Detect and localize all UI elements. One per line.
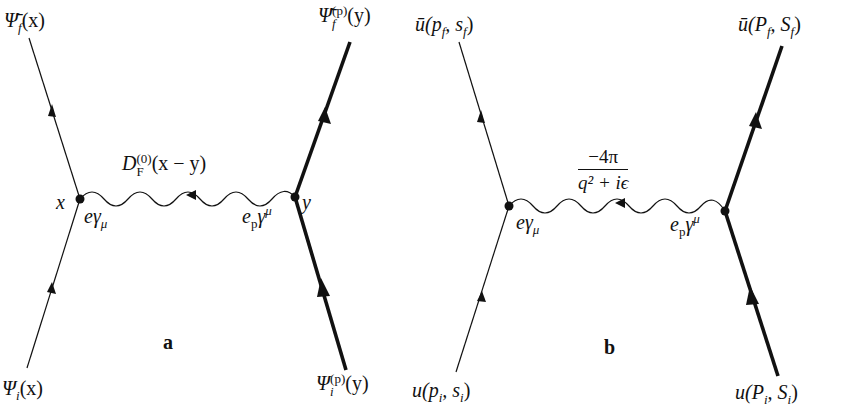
arrow-icon: [318, 107, 331, 124]
arrow-icon: [477, 291, 486, 302]
arrow-icon: [746, 286, 759, 305]
propagator-denominator: q² + iϵ: [578, 170, 628, 192]
label-u-bar-pf-sf: ū(pf, sf): [415, 14, 473, 38]
label-coupling-left-b: eγμ: [516, 212, 539, 236]
label-u-pi-si: u(pi, si): [412, 380, 470, 404]
electron-line-outgoing-a: [29, 38, 80, 199]
vertex-right-b: [721, 207, 730, 216]
diagram-b: [456, 42, 782, 376]
proton-line-outgoing-b: [725, 46, 782, 211]
electron-line-outgoing-b: [459, 42, 509, 206]
label-u-bar-Pf-Sf: ū(Pf, Sf): [738, 14, 801, 38]
vertex-left-b: [505, 202, 514, 211]
arrow-icon: [477, 110, 485, 123]
label-propagator-a: D(0)F(x − y): [122, 152, 206, 178]
label-u-Pi-Si: u(Pi, Si): [735, 382, 798, 406]
panel-label-a: a: [163, 332, 173, 352]
label-coupling-right-a: epγμ: [242, 204, 272, 230]
label-psi-bar-f-x: Ψ̄f(x): [4, 10, 45, 34]
vertex-y: [291, 193, 300, 202]
label-vertex-x: x: [56, 192, 65, 212]
propagator-numerator: −4π: [578, 147, 628, 170]
label-psi-i-x: Ψi(x): [2, 378, 43, 402]
label-coupling-left-a: eγμ: [84, 206, 107, 230]
label-propagator-b: −4π q² + iϵ: [578, 147, 628, 192]
feynman-diagrams-canvas: [0, 0, 841, 409]
label-vertex-y: y: [302, 192, 311, 212]
arrow-icon: [48, 104, 56, 117]
label-psi-bar-f-p-y: Ψ̄(p)f(y): [318, 4, 371, 30]
vertex-x: [76, 195, 85, 204]
label-psi-i-p-y: Ψ(p)i(y): [316, 372, 369, 398]
electron-line-incoming-a: [27, 199, 80, 368]
electron-line-incoming-b: [456, 206, 509, 372]
panel-label-b: b: [604, 337, 615, 357]
label-coupling-right-b: epγμ: [670, 212, 700, 238]
arrow-icon: [47, 282, 56, 294]
